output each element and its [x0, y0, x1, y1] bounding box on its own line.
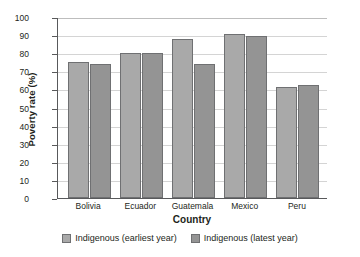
bar-groups	[58, 18, 327, 198]
bar-group	[167, 18, 219, 198]
bar	[90, 64, 111, 198]
x-axis-tick-labels: BoliviaEcuadorGuatemalaMexicoPeru	[57, 201, 327, 211]
legend-item-earliest: Indigenous (earliest year)	[62, 233, 177, 243]
legend-label: Indigenous (latest year)	[204, 233, 298, 243]
bar	[142, 53, 163, 198]
y-axis-tick-mark	[52, 127, 57, 128]
x-axis-tick-label: Peru	[271, 201, 323, 211]
y-axis-tick-mark	[52, 90, 57, 91]
y-axis-tick-label: 90	[5, 31, 29, 41]
bar-group	[271, 18, 323, 198]
bar-group	[219, 18, 271, 198]
y-axis-tick-mark	[52, 145, 57, 146]
y-axis-tick-label: 60	[5, 85, 29, 95]
bar-group	[63, 18, 115, 198]
y-axis-tick-mark	[52, 18, 57, 19]
y-axis-tick-label: 30	[5, 140, 29, 150]
x-axis-tick-label: Guatemala	[166, 201, 218, 211]
y-axis-tick-mark	[52, 199, 57, 200]
bar	[298, 85, 319, 198]
legend-swatch-icon	[62, 234, 71, 243]
y-axis-tick-mark	[52, 72, 57, 73]
legend-swatch-icon	[191, 234, 200, 243]
plot-area	[57, 18, 327, 199]
x-axis-tick-label: Mexico	[219, 201, 271, 211]
y-axis-tick-mark	[52, 54, 57, 55]
y-axis-tick-label: 40	[5, 122, 29, 132]
y-axis-tick-label: 80	[5, 49, 29, 59]
x-axis-tick-label: Ecuador	[114, 201, 166, 211]
bar	[120, 53, 141, 198]
y-axis-tick-label: 10	[5, 176, 29, 186]
legend-item-latest: Indigenous (latest year)	[191, 233, 298, 243]
bar	[224, 34, 245, 198]
y-axis-tick-mark	[52, 163, 57, 164]
bar	[246, 36, 267, 198]
y-axis-tick-label: 100	[5, 13, 29, 23]
y-axis-tick-label: 50	[5, 104, 29, 114]
y-axis-tick-label: 70	[5, 67, 29, 77]
y-axis-tick-mark	[52, 109, 57, 110]
legend-label: Indigenous (earliest year)	[75, 233, 177, 243]
y-axis-tick-label: 20	[5, 158, 29, 168]
y-axis-tick-mark	[52, 36, 57, 37]
x-axis-title: Country	[57, 214, 327, 225]
bar	[172, 39, 193, 198]
poverty-rate-bar-chart: Poverty rate (%) 0102030405060708090100 …	[0, 0, 360, 257]
x-axis-tick-label: Bolivia	[62, 201, 114, 211]
y-axis-tick-mark	[52, 181, 57, 182]
chart-legend: Indigenous (earliest year) Indigenous (l…	[0, 233, 360, 243]
y-axis-tick-label: 0	[5, 194, 29, 204]
bar	[276, 87, 297, 198]
bar-group	[115, 18, 167, 198]
bar	[194, 64, 215, 198]
bar	[68, 62, 89, 198]
